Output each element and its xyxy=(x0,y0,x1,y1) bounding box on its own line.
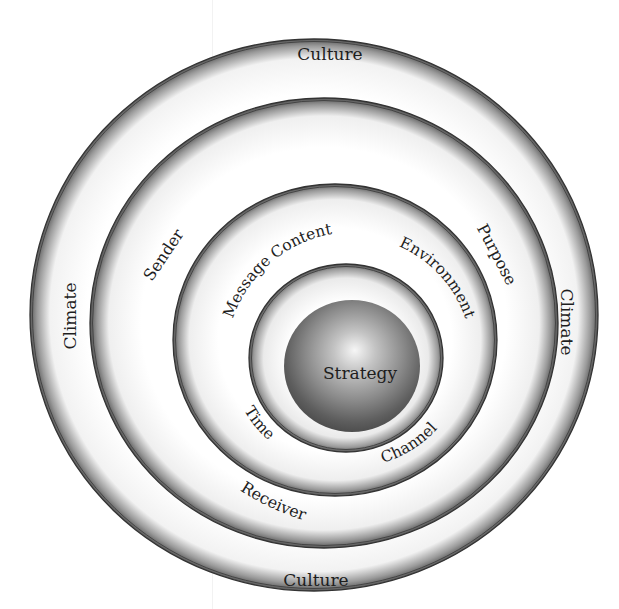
label-climate-right: Climate xyxy=(557,288,577,355)
label-culture-bottom: Culture xyxy=(283,570,348,590)
label-culture-top: Culture xyxy=(297,44,362,64)
concentric-rings-diagram: Culture Culture Climate Climate Sender P… xyxy=(0,0,619,609)
label-strategy: Strategy xyxy=(323,363,398,383)
label-climate-left: Climate xyxy=(60,282,80,349)
